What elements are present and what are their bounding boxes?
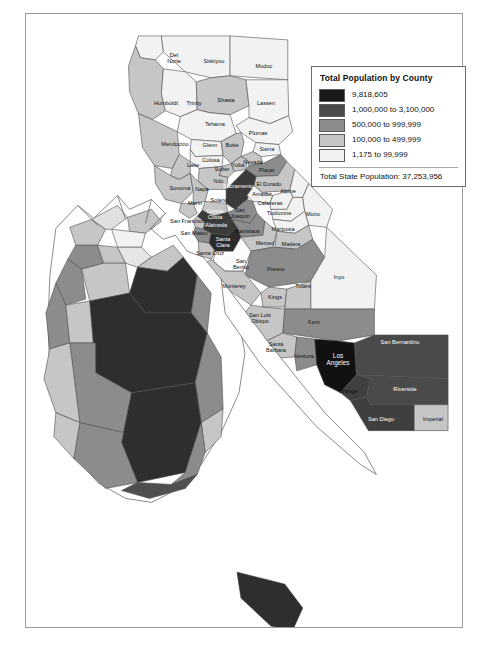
county-label-modoc[interactable]: Modoc — [256, 63, 273, 69]
legend-label-4: 1,175 to 99,999 — [352, 151, 408, 159]
legend-swatch-0 — [319, 89, 345, 102]
cartogram-bottom-sliver[interactable] — [237, 572, 303, 627]
county-label-kings[interactable]: Kings — [268, 294, 282, 300]
county-label-orange[interactable]: Orange — [339, 388, 358, 394]
county-label-santa-cruz[interactable]: Santa Cruz — [196, 250, 224, 256]
map-legend[interactable]: Total Population by County 9,818,6051,00… — [311, 66, 466, 187]
county-label-imperial[interactable]: Imperial — [423, 416, 443, 422]
county-label-san-luis-obispo[interactable]: San Luis Obispo — [249, 312, 271, 325]
county-label-placer[interactable]: Placer — [259, 167, 275, 173]
county-label-trinity[interactable]: Trinity — [186, 100, 201, 106]
header-ghost-text: · · · · — [70, 0, 108, 3]
county-label-mariposa[interactable]: Mariposa — [271, 226, 294, 232]
county-label-mendocino[interactable]: Mendocino — [161, 141, 188, 147]
county-label-alpine[interactable]: Alpine — [280, 188, 296, 194]
county-label-sonoma[interactable]: Sonoma — [170, 185, 191, 191]
county-label-madera[interactable]: Madera — [282, 241, 301, 247]
legend-divider — [319, 167, 458, 168]
county-label-sacramento[interactable]: Sacramento — [223, 183, 253, 189]
legend-row-4[interactable]: 1,175 to 99,999 — [319, 148, 458, 162]
county-label-ventura[interactable]: Ventura — [294, 353, 313, 359]
county-label-san-joaquin[interactable]: San Joaquin — [230, 207, 250, 220]
cropped-header-remnant: · · · · — [0, 0, 488, 14]
county-label-amador[interactable]: Amador — [252, 191, 272, 197]
county-label-nevada[interactable]: Nevada — [243, 159, 262, 165]
legend-label-3: 100,000 to 499,999 — [352, 136, 421, 144]
county-label-tuolumne[interactable]: Tuolumne — [267, 210, 292, 216]
county-label-plumas[interactable]: Plumas — [249, 130, 268, 136]
county-label-san-francisco[interactable]: San Francisco — [170, 218, 206, 224]
county-label-san-benito[interactable]: San Benito — [233, 258, 249, 271]
county-label-tehama[interactable]: Tehama — [205, 121, 225, 127]
county-label-butte[interactable]: Butte — [225, 142, 238, 148]
legend-swatch-4 — [319, 149, 345, 162]
county-inyo[interactable] — [311, 227, 377, 309]
county-label-los-angeles[interactable]: Los Angeles — [326, 352, 349, 366]
county-kern[interactable] — [283, 309, 375, 341]
legend-row-0[interactable]: 9,818,605 — [319, 88, 458, 102]
legend-row-1[interactable]: 1,000,000 to 3,100,000 — [319, 103, 458, 117]
county-label-lassen[interactable]: Lassen — [257, 100, 275, 106]
legend-swatch-1 — [319, 104, 345, 117]
legend-row-2[interactable]: 500,000 to 999,999 — [319, 118, 458, 132]
legend-label-1: 1,000,000 to 3,100,000 — [352, 106, 434, 114]
figure-root: · · · · — [0, 0, 488, 654]
county-label-san-diego[interactable]: San Diego — [368, 416, 394, 422]
county-label-mono[interactable]: Mono — [306, 211, 320, 217]
county-label-sierra[interactable]: Sierra — [260, 146, 275, 152]
legend-label-2: 500,000 to 999,999 — [352, 121, 421, 129]
county-label-inyo[interactable]: Inyo — [334, 274, 345, 280]
county-label-santa-barbara[interactable]: Santa Barbara — [266, 341, 286, 354]
county-label-marin[interactable]: Marin — [188, 200, 202, 206]
map-frame: Del NorteSiskiyouModocHumboldtTrinitySha… — [25, 13, 463, 628]
county-label-stanislaus[interactable]: Stanislaus — [234, 228, 260, 234]
county-label-humboldt[interactable]: Humboldt — [154, 100, 178, 106]
county-label-napa[interactable]: Napa — [195, 186, 208, 192]
county-label-lake[interactable]: Lake — [187, 162, 199, 168]
county-label-yolo[interactable]: Yolo — [213, 178, 224, 184]
county-label-san-bernardino[interactable]: San Bernardino — [381, 339, 420, 345]
county-modoc[interactable] — [230, 36, 288, 80]
county-label-el-dorado[interactable]: El Dorado — [257, 181, 282, 187]
county-label-fresno[interactable]: Fresno — [267, 266, 284, 272]
legend-swatch-2 — [319, 119, 345, 132]
legend-row-3[interactable]: 100,000 to 499,999 — [319, 133, 458, 147]
county-label-san-mateo[interactable]: San Mateo — [180, 230, 207, 236]
county-trinity[interactable] — [161, 69, 197, 117]
legend-swatch-3 — [319, 134, 345, 147]
legend-title: Total Population by County — [320, 73, 458, 83]
county-label-glenn[interactable]: Glenn — [203, 142, 218, 148]
legend-total-population: Total State Population: 37,253,956 — [320, 172, 458, 181]
county-label-riverside[interactable]: Riverside — [393, 386, 416, 392]
county-label-tulare[interactable]: Tulare — [295, 283, 311, 289]
county-shasta[interactable] — [196, 76, 249, 115]
county-label-merced[interactable]: Merced — [256, 240, 275, 246]
county-label-santa-clara[interactable]: Santa Clara — [216, 236, 231, 249]
county-label-shasta[interactable]: Shasta — [217, 97, 234, 103]
county-label-monterey[interactable]: Monterey — [222, 283, 245, 289]
county-label-sutter[interactable]: Sutter — [215, 166, 230, 172]
county-label-kern[interactable]: Kern — [308, 319, 320, 325]
county-label-contra-costa[interactable]: Contra Costa — [207, 208, 224, 221]
legend-class-list: 9,818,6051,000,000 to 3,100,000500,000 t… — [319, 88, 458, 162]
county-label-alameda[interactable]: Alameda — [205, 222, 227, 228]
legend-label-0: 9,818,605 — [352, 91, 388, 99]
county-label-colusa[interactable]: Colusa — [202, 157, 219, 163]
county-label-siskiyou[interactable]: Siskiyou — [204, 58, 225, 64]
county-label-calaveras[interactable]: Calaveras — [257, 200, 282, 206]
county-label-del-norte[interactable]: Del Norte — [167, 52, 181, 65]
county-label-solano[interactable]: Solano — [210, 197, 227, 203]
